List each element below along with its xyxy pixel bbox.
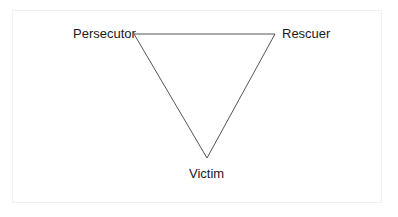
node-label-rescuer: Rescuer bbox=[282, 26, 330, 41]
node-label-victim: Victim bbox=[189, 166, 224, 181]
drama-triangle bbox=[134, 34, 275, 158]
triangle-diagram bbox=[0, 0, 398, 217]
node-label-persecutor: Persecutor bbox=[73, 26, 136, 41]
